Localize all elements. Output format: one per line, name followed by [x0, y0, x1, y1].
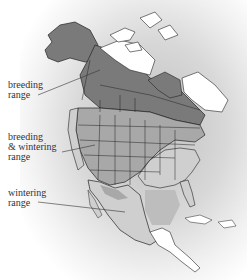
- region-caribbean: [185, 215, 236, 228]
- legend-line: range: [8, 152, 57, 162]
- legend-breeding-label: breeding range: [8, 80, 43, 100]
- legend-wintering-label: wintering range: [8, 188, 46, 208]
- range-map: breeding range breeding & wintering rang…: [0, 0, 247, 280]
- legend-both-label: breeding & wintering range: [8, 132, 57, 162]
- gulf-of-mexico: [145, 190, 180, 225]
- region-florida: [180, 180, 195, 207]
- region-central-america: [150, 228, 200, 272]
- legend-line: range: [8, 198, 46, 208]
- legend-line: range: [8, 90, 43, 100]
